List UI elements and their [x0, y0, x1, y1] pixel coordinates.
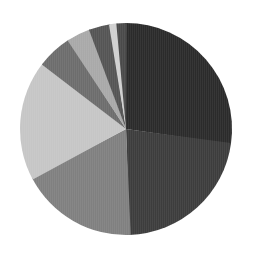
pie-chart-canvas: [0, 0, 253, 261]
pie-slice-group: [20, 23, 232, 235]
pie-chart-figure: [0, 0, 253, 261]
